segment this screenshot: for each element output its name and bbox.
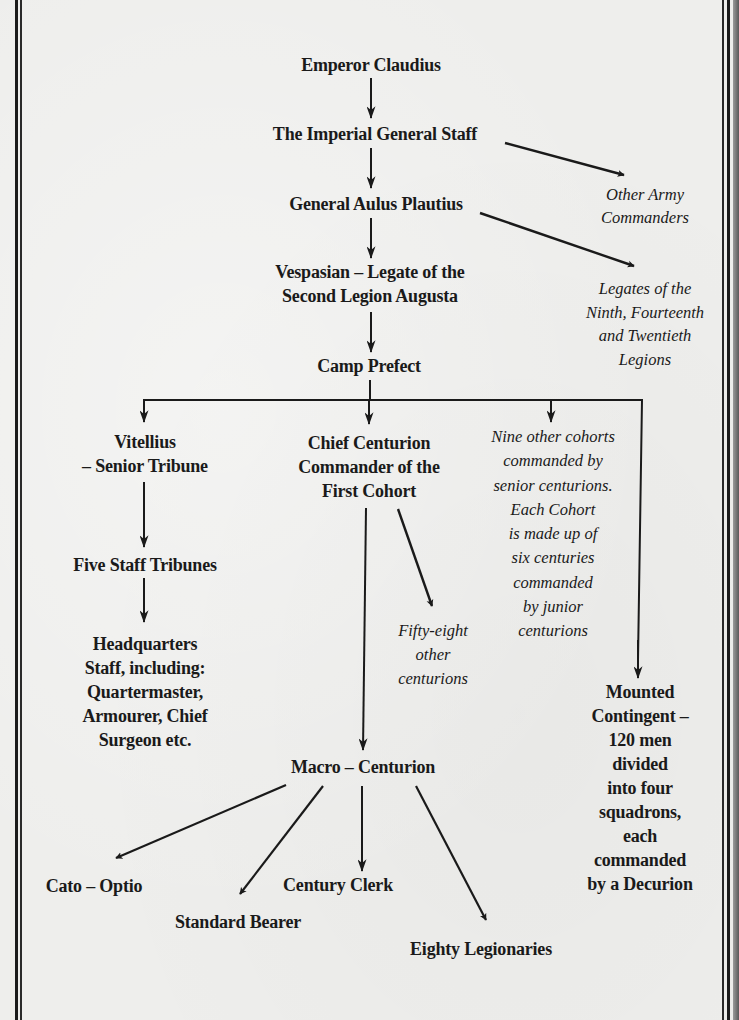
node-vitellius: Vitellius – Senior Tribune bbox=[82, 430, 208, 478]
node-emperor-claudius: Emperor Claudius bbox=[301, 53, 441, 77]
arrow-chief-to-macro bbox=[363, 508, 366, 750]
arrow-staff-to-other-commanders bbox=[505, 143, 624, 175]
arrow-chief-to-other-centurions bbox=[398, 509, 432, 606]
node-macro-centurion: Macro – Centurion bbox=[291, 755, 435, 779]
node-fifty-eight-centurions: Fifty-eight other centurions bbox=[398, 619, 468, 691]
node-general-aulus-plautius: General Aulus Plautius bbox=[289, 192, 463, 216]
node-camp-prefect: Camp Prefect bbox=[317, 354, 421, 378]
node-eighty-legionaries: Eighty Legionaries bbox=[410, 937, 552, 961]
arrow-macro-to-legionaries bbox=[416, 786, 486, 920]
arrow-macro-to-cato bbox=[116, 785, 286, 858]
node-century-clerk: Century Clerk bbox=[283, 873, 393, 897]
node-cato-optio: Cato – Optio bbox=[46, 874, 143, 898]
node-other-cohorts: Nine other cohorts commanded by senior c… bbox=[491, 425, 615, 644]
page: Emperor Claudius The Imperial General St… bbox=[0, 0, 739, 1020]
node-other-legates: Legates of the Ninth, Fourteenth and Twe… bbox=[586, 277, 704, 371]
node-other-army-commanders: Other Army Commanders bbox=[601, 183, 689, 229]
node-chief-centurion: Chief Centurion Commander of the First C… bbox=[298, 431, 439, 503]
node-vespasian: Vespasian – Legate of the Second Legion … bbox=[275, 260, 464, 308]
node-standard-bearer: Standard Bearer bbox=[175, 910, 301, 934]
node-imperial-general-staff: The Imperial General Staff bbox=[273, 122, 477, 146]
node-mounted-contingent: Mounted Contingent – 120 men divided int… bbox=[587, 680, 692, 896]
node-headquarters-staff: Headquarters Staff, including: Quarterma… bbox=[83, 632, 208, 752]
node-five-staff-tribunes: Five Staff Tribunes bbox=[73, 553, 217, 577]
